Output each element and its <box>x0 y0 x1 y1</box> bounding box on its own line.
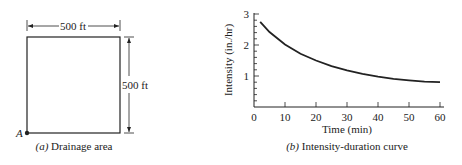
x-tick-label: 30 <box>342 111 354 123</box>
drainage-area-diagram: 500 ft 500 ft A (a) Drainage area <box>15 20 148 153</box>
x-tick-label: 20 <box>311 111 323 123</box>
caption-a: (a) Drainage area <box>36 140 113 153</box>
drainage-area-square <box>27 37 120 133</box>
height-label: 500 ft <box>122 79 148 91</box>
point-a-marker <box>25 131 29 135</box>
y-axis-label: Intensity (in./hr) <box>222 24 235 96</box>
caption-b: (b) Intensity-duration curve <box>286 140 408 153</box>
point-a-label: A <box>15 127 23 139</box>
x-tick-label: 0 <box>251 111 257 123</box>
y-tick-label: 1 <box>244 70 250 82</box>
x-tick-label: 60 <box>435 111 447 123</box>
intensity-duration-chart: 123 0102030405060 Intensity (in./hr) Tim… <box>222 8 446 153</box>
intensity-curve <box>260 22 440 82</box>
x-tick-label: 10 <box>280 111 292 123</box>
y-tick-label: 3 <box>244 8 250 20</box>
y-tick-label: 2 <box>244 39 250 51</box>
x-axis-label: Time (min) <box>322 123 372 136</box>
x-tick-label: 40 <box>373 111 385 123</box>
x-tick-label: 50 <box>404 111 416 123</box>
width-label: 500 ft <box>60 20 86 32</box>
figure: 500 ft 500 ft A (a) Drainage area 123 01… <box>0 0 462 165</box>
